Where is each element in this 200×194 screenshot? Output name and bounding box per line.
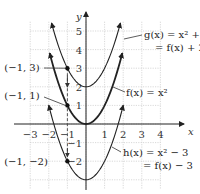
g-equation-line1: g(x) = x² + 2	[144, 29, 200, 40]
h-equation-line1: h(x) = x² − 3	[123, 147, 188, 158]
highlighted-points: (−1, 3)(−1, 1)(−1, −2)	[4, 62, 69, 167]
function-graph: xy −3−2−1123454321−1−2 (−1, 3)(−1, 1)(−1…	[0, 0, 200, 194]
grid-lines	[30, 22, 160, 189]
y-tick-label: 4	[76, 45, 82, 56]
point-label: (−1, 3)	[4, 62, 39, 73]
curve-arrow-icon	[119, 23, 120, 26]
curve-arrow-icon	[121, 53, 122, 57]
x-tick-label: 1	[101, 129, 107, 140]
point-marker	[65, 103, 69, 107]
y-axis-label: y	[75, 11, 82, 22]
point-label: (−1, −2)	[4, 156, 48, 167]
curve-arrow-icon	[52, 23, 53, 26]
g-equation-line2: = f(x) + 2	[155, 42, 200, 53]
y-tick-label: −1	[67, 138, 82, 149]
leader-line	[44, 97, 65, 105]
x-tick-label: 4	[157, 129, 163, 140]
y-tick-label: 5	[76, 26, 82, 37]
leader-line	[112, 147, 121, 152]
function-annotations: g(x) = x² + 2= f(x) + 2f(x) = x²h(x) = x…	[112, 29, 200, 171]
x-tick-label: 3	[139, 129, 145, 140]
x-axis-label: x	[188, 126, 194, 137]
x-tick-label: −2	[41, 129, 56, 140]
point-label: (−1, 1)	[4, 90, 39, 101]
curve-arrow-icon	[50, 53, 51, 57]
h-equation-line2: = f(x) − 3	[143, 160, 193, 171]
x-tick-label: 2	[120, 129, 126, 140]
f-equation: f(x) = x²	[126, 87, 168, 98]
leader-line	[124, 35, 142, 39]
point-marker	[65, 66, 69, 70]
y-tick-label: 1	[76, 100, 82, 111]
y-tick-label: 3	[76, 63, 82, 74]
point-marker	[65, 159, 69, 163]
x-tick-label: −3	[23, 129, 38, 140]
